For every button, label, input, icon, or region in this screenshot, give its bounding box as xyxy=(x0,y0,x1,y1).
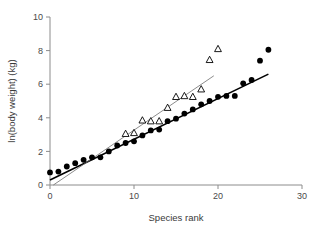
data-point-triangle xyxy=(139,117,146,123)
y-tick-label: 10 xyxy=(33,12,43,22)
y-tick-label: 2 xyxy=(38,147,43,157)
data-point-circle xyxy=(98,154,104,160)
data-point-circle xyxy=(47,170,53,176)
data-point-triangle xyxy=(189,93,196,99)
x-tick-label: 30 xyxy=(297,191,307,201)
y-axis-title: ln(body weight) (kg) xyxy=(6,59,17,142)
y-tick-label: 4 xyxy=(38,113,43,123)
data-point-circle xyxy=(89,154,95,160)
y-axis-ticks: 0246810 xyxy=(33,12,50,190)
series-open-triangles xyxy=(122,45,221,136)
data-point-circle xyxy=(240,80,246,86)
data-point-triangle xyxy=(122,130,129,136)
data-point-circle xyxy=(64,164,70,170)
data-point-circle xyxy=(173,116,179,122)
data-point-circle xyxy=(182,111,188,117)
data-point-circle xyxy=(215,94,221,100)
data-point-triangle xyxy=(156,118,163,124)
x-tick-label: 20 xyxy=(213,191,223,201)
data-point-circle xyxy=(106,149,112,155)
data-point-triangle xyxy=(173,93,180,99)
data-point-triangle xyxy=(206,56,213,62)
figure-container: 0246810 0102030 Species rank ln(body wei… xyxy=(0,0,321,230)
data-point-circle xyxy=(114,143,120,149)
data-point-circle xyxy=(207,98,213,104)
data-point-triangle xyxy=(181,92,188,98)
x-axis-title: Species rank xyxy=(149,212,204,223)
data-point-circle xyxy=(148,127,154,133)
data-point-circle xyxy=(165,118,171,124)
data-point-circle xyxy=(81,157,87,163)
x-axis-ticks: 0102030 xyxy=(47,185,307,201)
data-point-circle xyxy=(232,93,238,99)
data-point-circle xyxy=(123,140,129,146)
data-point-circle xyxy=(131,138,137,144)
axes-group xyxy=(50,17,302,185)
scatter-plot: 0246810 0102030 Species rank ln(body wei… xyxy=(0,0,321,230)
data-point-circle xyxy=(140,133,146,139)
y-tick-label: 8 xyxy=(38,46,43,56)
data-point-circle xyxy=(198,101,204,107)
x-tick-label: 10 xyxy=(129,191,139,201)
data-point-circle xyxy=(257,58,263,64)
series-filled-circles xyxy=(47,47,271,175)
data-point-circle xyxy=(249,77,255,83)
data-point-triangle xyxy=(198,86,205,92)
data-point-circle xyxy=(190,107,196,113)
data-point-circle xyxy=(156,127,162,133)
data-point-triangle xyxy=(215,45,222,51)
data-point-circle xyxy=(266,47,272,53)
x-tick-label: 0 xyxy=(47,191,52,201)
data-point-circle xyxy=(72,160,78,166)
y-tick-label: 6 xyxy=(38,79,43,89)
data-point-circle xyxy=(224,93,230,99)
y-tick-label: 0 xyxy=(38,180,43,190)
data-point-triangle xyxy=(131,129,138,135)
data-point-circle xyxy=(56,169,62,175)
data-point-triangle xyxy=(164,104,171,110)
